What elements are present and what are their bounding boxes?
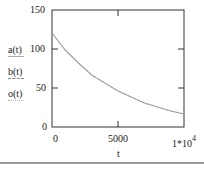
legend-o: o(t)	[8, 88, 24, 101]
y-tick-50: 50	[36, 83, 46, 93]
x-tick-0: 0	[53, 134, 58, 144]
y-tick-0: 0	[42, 122, 47, 132]
x-tick-5000: 5000	[108, 134, 128, 144]
legend-o-label: o(t)	[8, 88, 24, 99]
legend-b: b(t)	[8, 66, 24, 79]
x-tick-1e4-base: 1*10	[172, 138, 192, 149]
legend-b-label: b(t)	[8, 66, 24, 77]
x-tick-1e4-exp: 4	[192, 134, 196, 143]
region-separator	[0, 162, 204, 164]
legend-a-swatch	[8, 56, 24, 57]
y-tick-100: 100	[30, 44, 45, 54]
legend-b-swatch	[8, 78, 24, 79]
series-a-line	[52, 33, 184, 114]
series-b-line	[52, 33, 184, 114]
x-tick-1e4: 1*104	[172, 134, 196, 149]
x-axis-label: t	[117, 149, 120, 159]
legend-a: a(t)	[8, 44, 24, 57]
legend-o-swatch	[8, 100, 24, 101]
legend-a-label: a(t)	[8, 44, 24, 55]
y-tick-150: 150	[30, 5, 45, 15]
